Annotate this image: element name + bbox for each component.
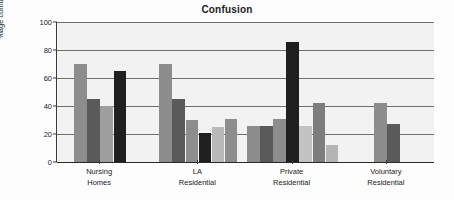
x-tick-mark xyxy=(292,160,293,164)
bar xyxy=(260,126,273,162)
x-axis-label-0: NursingHomes xyxy=(86,167,112,188)
y-tick-mark-80 xyxy=(53,50,57,51)
x-axis-label-line: LA xyxy=(179,167,216,178)
x-axis-labels: NursingHomesLAResidentialPrivateResident… xyxy=(56,164,434,198)
x-axis-label-line: Residential xyxy=(367,178,404,189)
x-axis-label-3: VoluntaryResidential xyxy=(367,167,404,188)
bar xyxy=(313,103,326,162)
y-tick-mark-40 xyxy=(53,106,57,107)
x-axis-label-line: Residential xyxy=(179,178,216,189)
bar xyxy=(100,106,113,162)
x-tick-mark xyxy=(99,160,100,164)
bar xyxy=(74,64,87,162)
y-tick-mark-100 xyxy=(53,22,57,23)
bars-layer xyxy=(57,22,434,162)
bar xyxy=(286,42,299,162)
y-tick-label-0: 0 xyxy=(48,158,52,167)
chart-title: Confusion xyxy=(0,4,454,15)
y-tick-label-20: 20 xyxy=(44,130,52,139)
x-axis-label-2: PrivateResidential xyxy=(273,167,310,188)
y-tick-mark-0 xyxy=(53,162,57,163)
x-axis-label-1: LAResidential xyxy=(179,167,216,188)
bar xyxy=(374,103,387,162)
bar xyxy=(114,71,127,162)
y-tick-label-60: 60 xyxy=(44,74,52,83)
x-tick-mark xyxy=(197,160,198,164)
y-tick-label-40: 40 xyxy=(44,102,52,111)
x-axis-label-line: Nursing xyxy=(86,167,112,178)
bar xyxy=(212,127,225,162)
y-tick-label-80: 80 xyxy=(44,46,52,55)
x-axis-label-line: Voluntary xyxy=(367,167,404,178)
bar xyxy=(159,64,172,162)
x-tick-mark xyxy=(386,160,387,164)
bar xyxy=(299,126,312,162)
chart-container: Confusion 020406080100 %age confused Nur… xyxy=(0,0,454,200)
bar xyxy=(326,145,339,162)
bar xyxy=(87,99,100,162)
bar xyxy=(225,119,238,162)
x-axis-label-line: Homes xyxy=(86,178,112,189)
y-tick-mark-60 xyxy=(53,78,57,79)
y-tick-mark-20 xyxy=(53,134,57,135)
y-tick-label-100: 100 xyxy=(39,18,52,27)
y-axis-label: %age confused xyxy=(0,0,5,58)
bar xyxy=(387,124,400,162)
x-axis-label-line: Private xyxy=(273,167,310,178)
x-axis-label-line: Residential xyxy=(273,178,310,189)
bar xyxy=(172,99,185,162)
bar xyxy=(273,119,286,162)
bar xyxy=(199,133,212,162)
bar xyxy=(186,120,199,162)
bar xyxy=(247,126,260,162)
plot-area: 020406080100 xyxy=(56,22,434,162)
